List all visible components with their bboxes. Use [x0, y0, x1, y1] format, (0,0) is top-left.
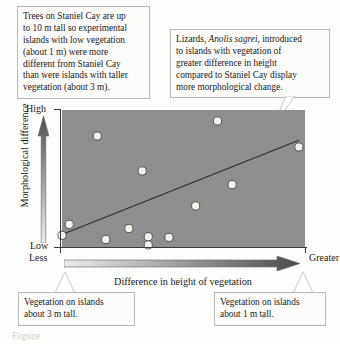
- callout-line: to islands with vegetation of: [176, 46, 324, 58]
- callout-text-post: , introduced: [258, 34, 302, 44]
- data-point: [295, 143, 303, 151]
- data-point: [144, 233, 152, 241]
- callout-line: to 10 m tall so experimental: [23, 23, 144, 35]
- callout-lizards-anolis: Lizards, Anolis sagrei, introduced to is…: [170, 29, 330, 98]
- callout-line: more morphological change.: [176, 82, 324, 94]
- y-axis-gradient-arrow-icon: [38, 116, 49, 243]
- x-tick-less: [60, 247, 61, 253]
- callout-leader-veg1: [290, 272, 316, 294]
- x-tick-greater: [305, 247, 306, 253]
- data-point: [165, 233, 173, 241]
- callout-text-pre: Lizards,: [176, 34, 209, 44]
- y-axis-title: Morphological difference: [19, 96, 30, 216]
- data-point: [102, 235, 110, 243]
- figure-caption: Figure: [12, 330, 41, 341]
- data-point: [228, 181, 236, 189]
- callout-line: compared to Staniel Cay display: [176, 70, 324, 82]
- x-axis-label-greater: Greater: [309, 252, 339, 263]
- callout-line: vegetation (about 3 m).: [23, 82, 144, 94]
- callout-line: (about 1 m) were more: [23, 47, 144, 59]
- scatter-plot-area: [62, 110, 305, 247]
- callout-trees-staniel-cay: Trees on Staniel Cay are up to 10 m tall…: [17, 6, 150, 99]
- data-point: [65, 220, 73, 228]
- callout-line-species: Lizards, Anolis sagrei, introduced: [176, 34, 324, 46]
- species-name-italic: Anolis sagrei: [209, 34, 258, 44]
- x-axis-label-less: Less: [29, 252, 47, 263]
- callout-line: Trees on Staniel Cay are up: [23, 11, 144, 23]
- callout-leader-veg3: [52, 272, 78, 294]
- data-point: [213, 117, 221, 125]
- scatter-plot-canvas: [62, 110, 305, 247]
- data-point: [192, 202, 200, 210]
- data-point: [138, 167, 146, 175]
- x-axis-gradient-arrow-icon: [64, 256, 300, 271]
- callout-vegetation-1m: Vegetation on islands about 1 m tall.: [214, 292, 326, 326]
- callout-vegetation-3m: Vegetation on islands about 3 m tall.: [18, 292, 135, 326]
- trend-line: [63, 140, 299, 234]
- callout-line: than were islands with taller: [23, 70, 144, 82]
- callout-line: greater difference in height: [176, 58, 324, 70]
- callout-line: Vegetation on islands: [220, 297, 320, 309]
- y-tick-high: [54, 109, 60, 110]
- y-axis-line: [60, 109, 61, 248]
- x-axis-line: [60, 247, 307, 248]
- data-point: [93, 132, 101, 140]
- callout-line: Vegetation on islands: [24, 297, 129, 309]
- callout-line: different from Staniel Cay: [23, 59, 144, 71]
- data-point: [125, 224, 133, 232]
- callout-line: about 1 m tall.: [220, 309, 320, 321]
- x-axis-title: Difference in height of vegetation: [60, 276, 306, 287]
- callout-line: about 3 m tall.: [24, 309, 129, 321]
- callout-line: islands with low vegetation: [23, 35, 144, 47]
